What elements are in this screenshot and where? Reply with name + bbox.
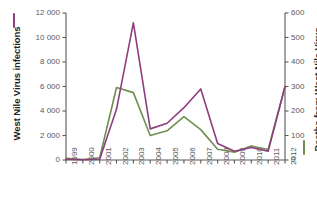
right-axis-tick-label: 300 [291, 82, 317, 91]
left-axis-tick-label: 12 000 [18, 8, 60, 17]
plot-area [66, 13, 285, 160]
right-axis-tick-label: 200 [291, 106, 317, 115]
axis-lines [63, 13, 289, 164]
left-axis-tick-label: 6 000 [18, 82, 60, 91]
left-axis-tick-label: 10 000 [18, 33, 60, 42]
x-axis-tick-label: 2012 [289, 125, 298, 165]
left-axis-tick-label: 0 [18, 155, 60, 164]
right-axis-tick-label: 600 [291, 8, 317, 17]
series-line-left [66, 23, 285, 160]
plot-svg [66, 13, 285, 160]
series-line-right [66, 87, 285, 160]
left-axis-tick-label: 2 000 [18, 131, 60, 140]
data-series-lines [66, 23, 285, 160]
right-series-legend-dash-icon [303, 140, 305, 155]
left-axis-tick-label: 4 000 [18, 106, 60, 115]
left-axis-tick-label: 8 000 [18, 57, 60, 66]
right-axis-tick-label: 400 [291, 57, 317, 66]
right-axis-tick-label: 500 [291, 33, 317, 42]
west-nile-virus-chart: West Nile Virus infections Deaths from W… [0, 0, 317, 203]
